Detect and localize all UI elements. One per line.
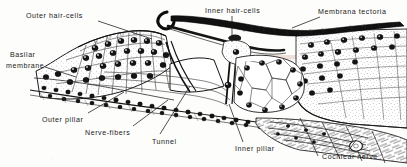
supporting-cell-mass xyxy=(234,55,304,112)
right-cell-mass xyxy=(296,29,407,128)
label-basilar-membrane-line1: Basilar xyxy=(10,51,36,59)
organ-of-corti-figure: Outer hair-cells Inner hair-cells Membra… xyxy=(0,0,407,167)
label-nerve-fibers: Nerve-fibers xyxy=(85,129,130,137)
label-tunnel: Tunnel xyxy=(152,138,177,146)
label-basilar-membrane-line2: membrane xyxy=(6,62,44,70)
label-outer-pillar: Outer pillar xyxy=(42,116,83,124)
label-membrana-tectoria: Membrana tectoria xyxy=(318,8,387,16)
label-outer-hair-cells: Outer hair-cells xyxy=(26,12,83,20)
label-inner-hair-cells: Inner hair-cells xyxy=(205,7,260,15)
label-cochlear-nerve: Cochlear nerve xyxy=(322,153,378,161)
organ-of-corti-illustration xyxy=(0,0,407,167)
label-inner-pillar: Inner pillar xyxy=(235,145,275,153)
